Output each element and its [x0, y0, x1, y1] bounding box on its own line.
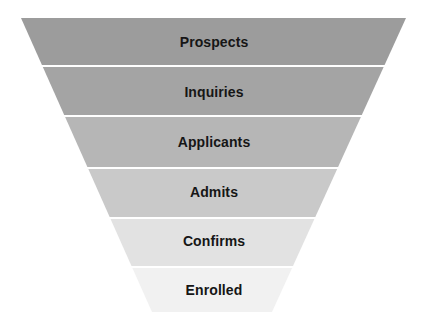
funnel-band-confirms	[111, 219, 315, 266]
funnel-diagram: ProspectsInquiriesApplicantsAdmitsConfir…	[0, 0, 428, 333]
funnel-shape	[0, 0, 428, 333]
funnel-band-admits	[88, 169, 337, 217]
funnel-band-inquiries	[43, 67, 384, 115]
funnel-band-enrolled	[132, 268, 292, 312]
funnel-band-applicants	[65, 117, 361, 167]
funnel-bands	[21, 18, 406, 312]
funnel-band-prospects	[21, 18, 406, 65]
